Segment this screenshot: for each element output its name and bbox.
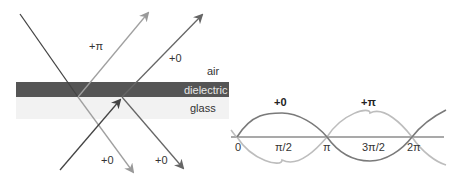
label-reflected-zero: +0 (169, 52, 182, 64)
label-dark-wave: +0 (274, 96, 287, 108)
label-reflected-pi: +π (89, 40, 103, 52)
label-transmitted-left: +0 (101, 154, 114, 166)
tick-pi: π (323, 141, 331, 153)
label-transmitted-right: +0 (155, 154, 168, 166)
label-air: air (207, 65, 220, 77)
tick-0: 0 (235, 141, 241, 153)
tick-2pi: 2π (407, 141, 421, 153)
wave-plot: +0 +π 0 π/2 π 3π/2 2π (231, 96, 446, 165)
thin-film-interference-diagram: +π +0 air dielectric glass +0 +0 +0 +π 0… (0, 0, 463, 179)
light-wave (231, 110, 446, 165)
dark-wave (237, 110, 446, 161)
tick-3pi-half: 3π/2 (362, 141, 385, 153)
label-dielectric: dielectric (184, 84, 228, 96)
tick-pi-half: π/2 (275, 141, 292, 153)
label-glass: glass (190, 102, 216, 114)
label-light-wave: +π (361, 96, 376, 108)
